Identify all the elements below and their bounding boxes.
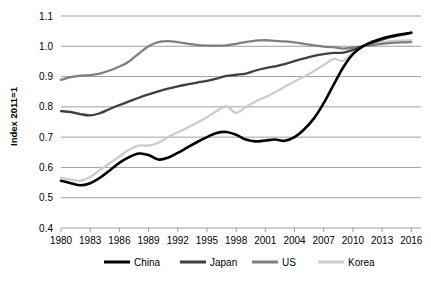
x-axis-tick-label: 2004 xyxy=(283,235,306,246)
y-axis-tick-label: 1.1 xyxy=(39,11,53,22)
x-axis-tick-label: 1983 xyxy=(79,235,102,246)
legend-label-japan: Japan xyxy=(210,257,237,268)
line-chart: Index 2011=1 1.11.00.90.80.70.60.50.4 19… xyxy=(0,0,431,285)
x-axis-tick-label: 2010 xyxy=(342,235,365,246)
y-axis-tick-label: 0.6 xyxy=(39,162,53,173)
chart-canvas: 1.11.00.90.80.70.60.50.4 198019831986198… xyxy=(0,0,431,285)
x-axis-tick-label: 2016 xyxy=(400,235,423,246)
x-axis-tick-label: 1989 xyxy=(137,235,160,246)
y-axis-tick-label: 0.8 xyxy=(39,101,53,112)
x-axis-tick-label: 2001 xyxy=(254,235,277,246)
gridlines xyxy=(61,16,421,228)
x-axis-tick-label: 2013 xyxy=(371,235,394,246)
y-axis-tick-label: 1.0 xyxy=(39,41,53,52)
y-axis-tick-labels: 1.11.00.90.80.70.60.50.4 xyxy=(39,11,53,234)
data-series xyxy=(61,33,411,186)
x-axis-tick-marks xyxy=(61,228,411,232)
x-axis-tick-label: 1998 xyxy=(225,235,248,246)
series-line-china xyxy=(61,33,411,186)
legend-label-china: China xyxy=(134,257,161,268)
y-axis-tick-label: 0.5 xyxy=(39,192,53,203)
chart-legend: ChinaJapanUSKorea xyxy=(104,257,375,268)
series-line-korea xyxy=(61,40,411,181)
x-axis-tick-label: 1992 xyxy=(167,235,190,246)
y-axis-tick-label: 0.7 xyxy=(39,132,53,143)
legend-label-korea: Korea xyxy=(348,257,375,268)
x-axis-tick-labels: 1980198319861989199219951998200120042007… xyxy=(50,235,423,246)
legend-label-us: US xyxy=(282,257,296,268)
x-axis-tick-label: 1995 xyxy=(196,235,219,246)
x-axis-tick-label: 2007 xyxy=(313,235,336,246)
x-axis-tick-label: 1986 xyxy=(108,235,131,246)
y-axis-tick-label: 0.9 xyxy=(39,71,53,82)
x-axis-tick-label: 1980 xyxy=(50,235,73,246)
y-axis-tick-label: 0.4 xyxy=(39,223,53,234)
series-line-japan xyxy=(61,33,411,115)
